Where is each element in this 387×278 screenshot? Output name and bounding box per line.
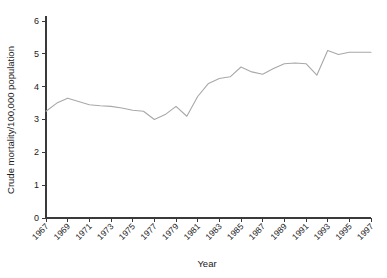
y-tick-label: 5 bbox=[34, 49, 39, 59]
x-tick-label: 1977 bbox=[138, 221, 159, 242]
x-tick-label: 1981 bbox=[182, 221, 203, 242]
x-tick-label: 1987 bbox=[247, 221, 268, 242]
data-line-crude-mortality bbox=[46, 51, 371, 120]
y-tick-label: 1 bbox=[34, 180, 39, 190]
x-tick-label: 1989 bbox=[268, 221, 289, 242]
y-tick-label: 3 bbox=[34, 114, 39, 124]
x-tick-label: 1967 bbox=[30, 221, 51, 242]
line-chart: 0123456 19671969197119731975197719791981… bbox=[0, 0, 387, 278]
x-tick-label: 1993 bbox=[312, 221, 333, 242]
y-tick-label: 2 bbox=[34, 147, 39, 157]
data-series-group bbox=[46, 51, 371, 120]
x-tick-label: 1983 bbox=[203, 221, 224, 242]
x-tick-label: 1991 bbox=[290, 221, 311, 242]
x-tick-label: 1975 bbox=[117, 221, 138, 242]
y-tick-label: 4 bbox=[34, 82, 39, 92]
x-tick-label: 1985 bbox=[225, 221, 246, 242]
y-tick-label: 6 bbox=[34, 16, 39, 26]
x-tick-label: 1973 bbox=[95, 221, 116, 242]
y-axis: 0123456 bbox=[34, 16, 46, 223]
y-axis-title: Crude mortality/100,000 population bbox=[5, 46, 16, 194]
x-tick-label: 1995 bbox=[333, 221, 354, 242]
chart-container: 0123456 19671969197119731975197719791981… bbox=[0, 0, 387, 278]
y-tick-label: 0 bbox=[34, 213, 39, 223]
x-tick-label: 1979 bbox=[160, 221, 181, 242]
x-axis-title: Year bbox=[197, 258, 216, 269]
x-tick-label: 1969 bbox=[52, 221, 73, 242]
x-tick-label: 1997 bbox=[355, 221, 376, 242]
x-axis: 1967196919711973197519771979198119831985… bbox=[30, 218, 376, 242]
x-tick-label: 1971 bbox=[73, 221, 94, 242]
